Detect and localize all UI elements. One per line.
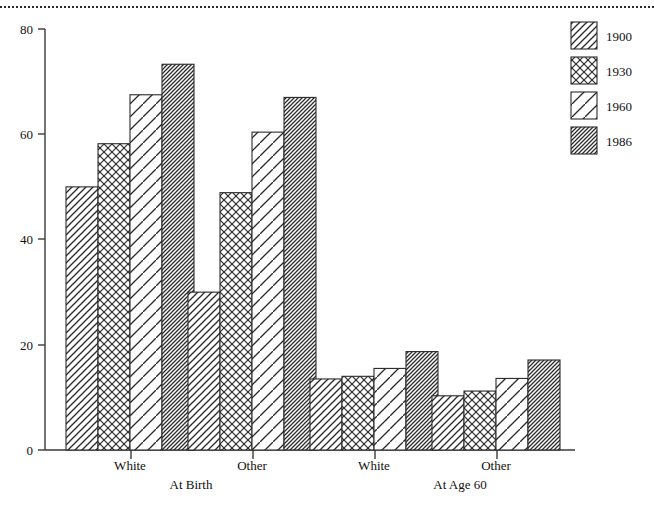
bar-1900 xyxy=(432,396,464,450)
bar-1900 xyxy=(66,187,98,450)
y-tick-40: 40 xyxy=(20,232,45,247)
bar-chart: 80 60 40 20 0 xyxy=(0,0,654,505)
x-category-label-2: Other xyxy=(237,458,267,473)
bar-1986 xyxy=(528,360,560,450)
bar-group-at-birth-other xyxy=(188,97,316,450)
top-dotted-rule xyxy=(0,6,654,8)
y-tick-label-60: 60 xyxy=(20,127,33,142)
legend-item-1900[interactable]: 1900 xyxy=(571,22,632,49)
legend-label-1900: 1900 xyxy=(606,29,632,44)
x-category-label-3: White xyxy=(358,458,390,473)
legend: 1900 1930 1960 1986 xyxy=(571,22,633,154)
figure-container: 80 60 40 20 0 xyxy=(0,0,654,505)
x-category-label-4: Other xyxy=(481,458,511,473)
bar-1960 xyxy=(496,378,528,450)
bar-1930 xyxy=(464,391,496,450)
legend-swatch-1986 xyxy=(571,127,597,154)
bar-1930 xyxy=(342,376,374,450)
legend-swatch-1960 xyxy=(571,92,597,119)
y-tick-80: 80 xyxy=(20,22,45,37)
y-tick-label-80: 80 xyxy=(20,22,33,37)
x-group-label-at-birth: At Birth xyxy=(170,477,213,492)
legend-item-1960[interactable]: 1960 xyxy=(571,92,632,119)
legend-label-1986: 1986 xyxy=(606,134,633,149)
bar-group-at-age-60-other xyxy=(432,360,560,450)
bar-1900 xyxy=(310,379,342,450)
bar-1930 xyxy=(220,193,252,450)
x-group-label-at-age-60: At Age 60 xyxy=(433,477,486,492)
legend-item-1930[interactable]: 1930 xyxy=(571,57,632,84)
legend-swatch-1930 xyxy=(571,57,597,84)
y-tick-label-0: 0 xyxy=(27,443,34,458)
bar-1960 xyxy=(252,132,284,450)
legend-label-1960: 1960 xyxy=(606,99,632,114)
y-tick-label-20: 20 xyxy=(20,338,33,353)
legend-swatch-1900 xyxy=(571,22,597,49)
bar-group-at-age-60-white xyxy=(310,352,438,450)
y-tick-0: 0 xyxy=(27,443,46,458)
x-category-label-1: White xyxy=(114,458,146,473)
y-tick-20: 20 xyxy=(20,338,45,353)
bar-1960 xyxy=(130,95,162,450)
legend-label-1930: 1930 xyxy=(606,64,632,79)
legend-item-1986[interactable]: 1986 xyxy=(571,127,633,154)
bar-1960 xyxy=(374,368,406,450)
y-tick-label-40: 40 xyxy=(20,232,33,247)
bar-1930 xyxy=(98,144,130,450)
y-axis: 80 60 40 20 0 xyxy=(20,22,45,458)
bar-group-at-birth-white xyxy=(66,64,194,450)
y-tick-60: 60 xyxy=(20,127,45,142)
bar-1900 xyxy=(188,292,220,450)
